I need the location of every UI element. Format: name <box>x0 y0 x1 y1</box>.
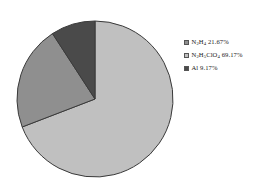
legend-swatch-al <box>184 66 189 71</box>
legend-item-n2h5clo4: N2H5ClO4 69.17% <box>184 51 260 60</box>
pie-chart-screenshot: N2H4 21.67% N2H5ClO4 69.17% Al 9.17% <box>0 0 260 196</box>
pie-chart-figure <box>0 0 260 196</box>
legend-swatch-n2h4 <box>184 40 189 45</box>
legend-item-n2h4: N2H4 21.67% <box>184 38 260 47</box>
legend-label-al: Al 9.17% <box>192 64 218 72</box>
pie-chart-svg <box>0 0 260 196</box>
legend-label-n2h5clo4: N2H5ClO4 69.17% <box>192 51 243 60</box>
legend-label-n2h4: N2H4 21.67% <box>192 38 229 47</box>
chart-legend: N2H4 21.67% N2H5ClO4 69.17% Al 9.17% <box>184 38 260 77</box>
legend-item-al: Al 9.17% <box>184 64 260 72</box>
pie-slices <box>17 21 173 177</box>
legend-swatch-n2h5clo4 <box>184 53 189 58</box>
